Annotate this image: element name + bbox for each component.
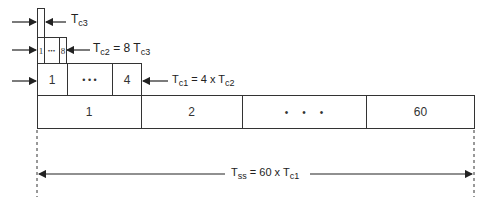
tc2-cell-8: 8 bbox=[59, 37, 67, 64]
tss-label: Tss = 60 x Tc1 bbox=[231, 166, 299, 181]
tc1-cell-dots: • • • bbox=[67, 63, 112, 96]
tc1-cell-1: 1 bbox=[37, 63, 67, 96]
tc2-cell-dots: ••• bbox=[44, 37, 59, 64]
superframe-cell-dots: • • • bbox=[242, 95, 366, 129]
tc1-label: Tc1 = 4 x Tc2 bbox=[172, 73, 235, 88]
tc2-label: Tc2 = 8 Tc3 bbox=[93, 41, 150, 57]
superframe-cell-2: 2 bbox=[141, 95, 242, 129]
tc3-label: Tc3 bbox=[71, 12, 88, 28]
superframe-cell-60: 60 bbox=[366, 95, 475, 129]
tc1-cell-4: 4 bbox=[112, 63, 142, 96]
superframe-cell-1: 1 bbox=[37, 95, 141, 129]
